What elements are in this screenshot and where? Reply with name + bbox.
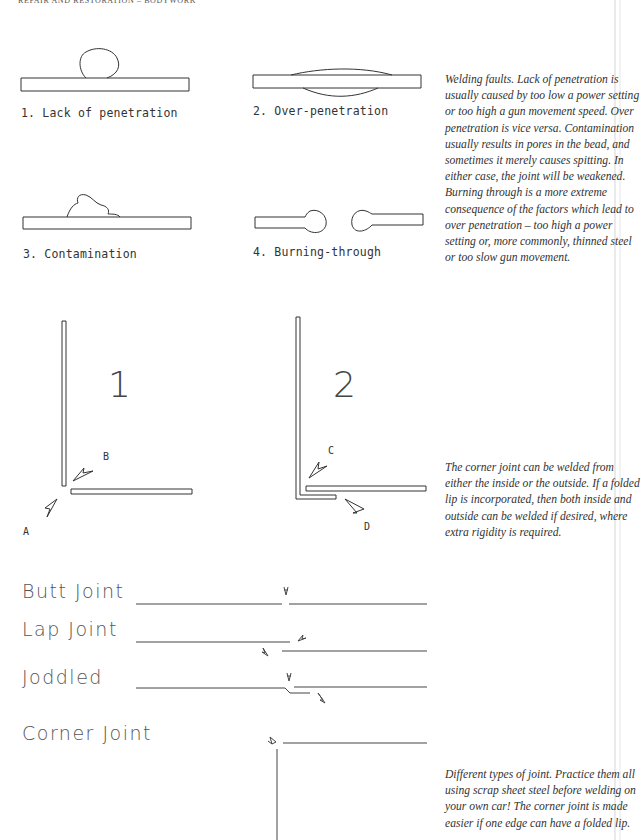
lap-weld-marker-bottom-icon <box>262 648 268 656</box>
joint-label-butt: Butt Joint <box>22 580 124 602</box>
joint-types-caption: Different types of joint. Practice them … <box>445 767 641 832</box>
corner-weld-marker-icon <box>268 737 276 744</box>
lap-weld-marker-top-icon <box>298 635 306 641</box>
joint-label-corner: Corner Joint <box>22 722 152 744</box>
joint-label-lap: Lap Joint <box>22 618 118 640</box>
joddled-weld-marker-icon <box>287 673 291 681</box>
joddled-underside-marker-icon <box>318 693 325 703</box>
joint-label-joddled: Joddled <box>22 666 103 688</box>
butt-weld-marker-icon <box>284 587 288 595</box>
